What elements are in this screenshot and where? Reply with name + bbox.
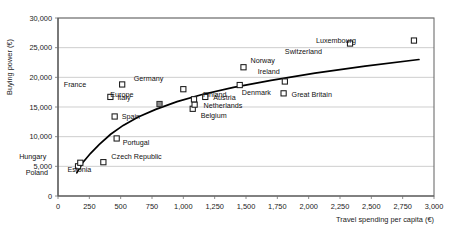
point-label-luxembourg: Luxembourg [316,36,356,45]
data-point-marker-spain [112,114,117,119]
data-point-marker-netherlands [192,102,197,107]
data-point-labels: PolandHungaryEstoniaCzech RepublicPortug… [19,36,356,178]
data-point-marker-estonia [101,160,106,165]
y-tick-label: 25,000 [29,43,52,52]
scatter-chart: 02505007501,0001,2501,5001,7502,0002,250… [0,0,456,246]
data-point-marker-ireland [282,79,287,84]
x-axis-title: Travel spending per capita (€) [336,215,434,224]
data-point-marker-portugal [114,136,119,141]
x-tick-label: 2,000 [299,202,318,211]
y-tick-label: 0 [48,192,52,201]
x-tick-label: 1,750 [268,202,287,211]
data-point-marker-denmark [237,82,242,87]
chart-canvas: 02505007501,0001,2501,5001,7502,0002,250… [0,0,456,246]
point-label-austria: Austria [213,93,235,102]
data-point-marker-luxembourg [411,38,416,43]
point-label-ireland: Ireland [258,67,280,76]
point-label-netherlands: Netherlands [204,101,243,110]
data-point-marker-europe [157,101,162,106]
x-tick-label: 1,500 [237,202,256,211]
point-label-poland: Poland [26,168,48,177]
point-label-france: France [64,80,86,89]
point-label-denmark: Denmark [242,88,272,97]
x-tick-label: 0 [56,202,60,211]
data-point-marker-finland [191,97,196,102]
x-tick-label: 2,750 [393,202,412,211]
data-markers [75,38,416,169]
point-label-spain: Spain [122,112,140,121]
point-label-germany: Germany [134,74,164,83]
x-tick-label: 2,500 [362,202,381,211]
point-label-norway: Norway [250,56,275,65]
data-point-marker-france [120,82,125,87]
x-tick-label: 250 [83,202,95,211]
x-axis-ticks: 02505007501,0001,2501,5001,7502,0002,250… [56,196,443,211]
point-label-czech-republic: Czech Republic [111,152,162,161]
data-point-marker-norway [241,65,246,70]
x-tick-label: 500 [114,202,126,211]
y-tick-label: 10,000 [29,132,52,141]
y-tick-label: 30,000 [29,14,52,23]
point-label-estonia: Estonia [67,165,91,174]
y-tick-label: 15,000 [29,103,52,112]
y-axis-title: Buying power (€) [5,39,14,95]
y-tick-label: 20,000 [29,73,52,82]
data-point-marker-germany [181,87,186,92]
point-label-portugal: Portugal [123,138,150,147]
point-label-europe: Europe [110,90,133,99]
x-tick-label: 2,250 [331,202,350,211]
point-label-switzerland: Switzerland [285,47,322,56]
point-label-hungary: Hungary [19,152,47,161]
data-point-marker-great-britain [281,91,286,96]
x-tick-label: 750 [146,202,158,211]
point-label-great-britain: Great Britain [292,90,332,99]
x-tick-label: 3,000 [425,202,444,211]
x-tick-label: 1,250 [205,202,224,211]
point-label-belgium: Belgium [201,111,227,120]
x-tick-label: 1,000 [174,202,193,211]
